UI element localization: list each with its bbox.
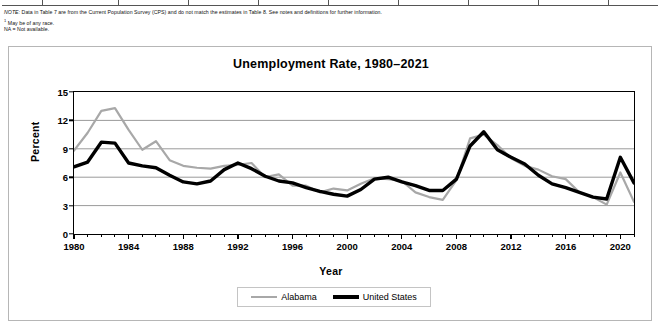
x-axis-tick-minor	[552, 234, 553, 237]
note-label: NOTE:	[4, 9, 20, 15]
plot-svg	[74, 92, 634, 234]
chart-legend: Alabama United States	[237, 287, 431, 307]
x-axis-tick-label: 2000	[337, 241, 358, 252]
legend-swatch-united-states-icon	[333, 295, 359, 299]
x-axis-tick-minor	[196, 234, 197, 237]
x-axis-tick-minor	[388, 234, 389, 237]
table-footer-notes: NOTE: Data in Table 7 are from the Curre…	[0, 0, 660, 40]
note-body: Data in Table 7 are from the Current Pop…	[20, 9, 382, 15]
x-axis-tick-major	[347, 234, 348, 239]
x-axis-tick-minor	[333, 234, 334, 237]
x-axis-tick-minor	[210, 234, 211, 237]
x-axis-tick-major	[510, 234, 511, 239]
x-axis-tick-label: 1980	[63, 241, 84, 252]
y-axis-tick	[69, 91, 74, 92]
x-axis-tick-label: 1988	[173, 241, 194, 252]
y-axis-tick	[69, 176, 74, 177]
x-axis-tick-minor	[483, 234, 484, 237]
table-column-separator	[538, 0, 539, 5]
y-axis-tick	[69, 148, 74, 149]
y-axis-tick-label: 3	[63, 200, 68, 211]
y-axis-tick-label: 9	[63, 143, 68, 154]
x-axis-tick-major	[128, 234, 129, 239]
y-axis-tick-label: 15	[57, 87, 68, 98]
series-lines	[74, 108, 634, 205]
y-axis-tick-label: 0	[63, 229, 68, 240]
x-axis-tick-minor	[538, 234, 539, 237]
y-axis-tick-label: 6	[63, 172, 68, 183]
legend-label-united-states: United States	[363, 292, 417, 302]
series-line-united-states	[74, 132, 634, 199]
x-axis-tick-major	[620, 234, 621, 239]
legend-item-alabama[interactable]: Alabama	[251, 292, 317, 302]
x-axis-tick-major	[292, 234, 293, 239]
x-axis-tick-minor	[319, 234, 320, 237]
x-axis-tick-minor	[224, 234, 225, 237]
x-axis-tick-major	[456, 234, 457, 239]
x-axis-tick-label: 2016	[555, 241, 576, 252]
footnote-1-text: May be of any race.	[6, 20, 54, 26]
y-axis-tick	[69, 205, 74, 206]
x-axis-title: Year	[9, 265, 653, 277]
table-column-separator	[118, 0, 119, 5]
x-axis-tick-label: 2012	[500, 241, 521, 252]
y-axis-tick	[69, 120, 74, 121]
x-axis-tick-major	[73, 234, 74, 239]
x-axis-tick-minor	[497, 234, 498, 237]
plot-area: 03691215 1980198419881992199620002004200…	[73, 91, 635, 235]
x-axis-tick-minor	[155, 234, 156, 237]
table-bottom-rule	[2, 5, 658, 6]
x-axis-tick-minor	[524, 234, 525, 237]
table-column-separator	[328, 0, 329, 5]
x-axis-tick-minor	[101, 234, 102, 237]
table-column-separator	[258, 0, 259, 5]
table-column-separator	[42, 0, 43, 5]
table-column-separator	[398, 0, 399, 5]
x-axis-tick-minor	[470, 234, 471, 237]
x-axis-tick-minor	[169, 234, 170, 237]
x-axis-tick-minor	[593, 234, 594, 237]
x-axis-tick-minor	[429, 234, 430, 237]
x-axis-tick-label: 1992	[227, 241, 248, 252]
x-axis-tick-label: 2020	[610, 241, 631, 252]
legend-swatch-alabama-icon	[251, 296, 277, 298]
table-footnote-2: NA = Not available.	[4, 26, 49, 32]
chart-title: Unemployment Rate, 1980–2021	[9, 57, 653, 71]
x-axis-tick-label: 2008	[446, 241, 467, 252]
table-column-separator	[608, 0, 609, 5]
x-axis-tick-minor	[114, 234, 115, 237]
x-axis-tick-minor	[360, 234, 361, 237]
x-axis-tick-minor	[634, 234, 635, 237]
table-column-separator	[468, 0, 469, 5]
series-line-alabama	[74, 108, 634, 205]
x-axis-tick-label: 1996	[282, 241, 303, 252]
x-axis-tick-major	[401, 234, 402, 239]
x-axis-tick-minor	[606, 234, 607, 237]
table-note: NOTE: Data in Table 7 are from the Curre…	[4, 9, 382, 15]
legend-label-alabama: Alabama	[281, 292, 317, 302]
x-axis-tick-minor	[265, 234, 266, 237]
x-axis-tick-minor	[306, 234, 307, 237]
y-axis-tick-label: 12	[57, 115, 68, 126]
chart-container: Unemployment Rate, 1980–2021 Percent 036…	[8, 46, 652, 321]
x-axis-tick-minor	[251, 234, 252, 237]
table-column-separator	[188, 0, 189, 5]
x-axis-tick-minor	[579, 234, 580, 237]
x-axis-tick-minor	[415, 234, 416, 237]
x-axis-tick-minor	[142, 234, 143, 237]
y-axis-title: Percent	[29, 121, 41, 162]
legend-item-united-states[interactable]: United States	[333, 292, 417, 302]
x-axis-tick-minor	[87, 234, 88, 237]
x-axis-tick-minor	[278, 234, 279, 237]
table-footnote-1: 1 May be of any race.	[4, 18, 54, 26]
x-axis-tick-major	[565, 234, 566, 239]
x-axis-tick-label: 1984	[118, 241, 139, 252]
x-axis-tick-major	[237, 234, 238, 239]
x-axis-tick-minor	[374, 234, 375, 237]
x-axis-tick-major	[183, 234, 184, 239]
x-axis-tick-minor	[442, 234, 443, 237]
x-axis-tick-label: 2004	[391, 241, 412, 252]
